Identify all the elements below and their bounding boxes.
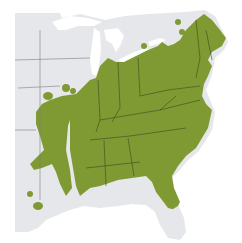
range-patch [141, 43, 147, 49]
range-patch [43, 92, 53, 100]
range-patch [33, 202, 43, 210]
range-patch [62, 84, 70, 92]
range-patch [179, 29, 185, 35]
range-patch [70, 88, 76, 94]
range-map [0, 0, 242, 243]
range-patch [175, 19, 181, 25]
map-svg [0, 0, 242, 243]
range-patch [27, 191, 33, 197]
